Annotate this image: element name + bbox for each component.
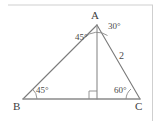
vertex-label-b: B [13, 101, 20, 112]
right-angle-mark [89, 91, 97, 99]
angle-label-b: 45° [36, 86, 49, 95]
vertex-label-c: C [135, 101, 142, 112]
angle-label-c: 60° [114, 86, 127, 95]
side-length-label-ac: 2 [119, 51, 124, 61]
vertex-label-a: A [91, 10, 99, 21]
geometry-figure: A B C 45° 30° 45° 60° 2 [0, 0, 161, 126]
angle-label-a-left: 45° [75, 33, 88, 42]
angle-label-a-right: 30° [108, 22, 121, 31]
